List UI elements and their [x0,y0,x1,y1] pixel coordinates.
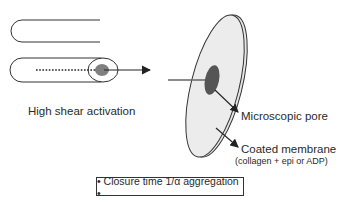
summary-box: • Closure time 1/α aggregation • [96,177,244,196]
membrane-detail-label: (collagen + epi or ADP) [235,156,328,166]
activation-label: High shear activation [28,105,135,117]
membrane-label: Coated membrane [241,143,336,155]
capillary-tube [11,20,100,42]
pore-label: Microscopic pore [241,110,328,122]
diagram-canvas [0,0,345,204]
